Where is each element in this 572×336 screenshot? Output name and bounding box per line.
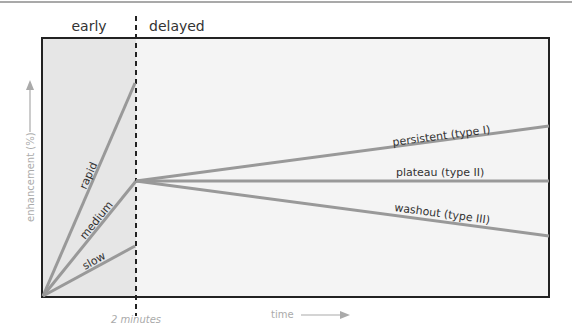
delayed-label: delayed [149, 18, 205, 34]
x-axis-label: time [271, 309, 294, 320]
early-label: early [71, 18, 106, 34]
two-minutes-label: 2 minutes [111, 314, 161, 325]
delayed-phase-region [136, 38, 549, 297]
plateau-label: plateau (type II) [396, 166, 484, 179]
kinetic-curve-diagram: early delayed rapid medium slow persiste… [0, 0, 572, 336]
y-axis-arrowhead-icon [26, 80, 34, 90]
y-axis-label: enhancement (%) [25, 132, 36, 222]
x-axis-arrowhead-icon [340, 311, 350, 319]
